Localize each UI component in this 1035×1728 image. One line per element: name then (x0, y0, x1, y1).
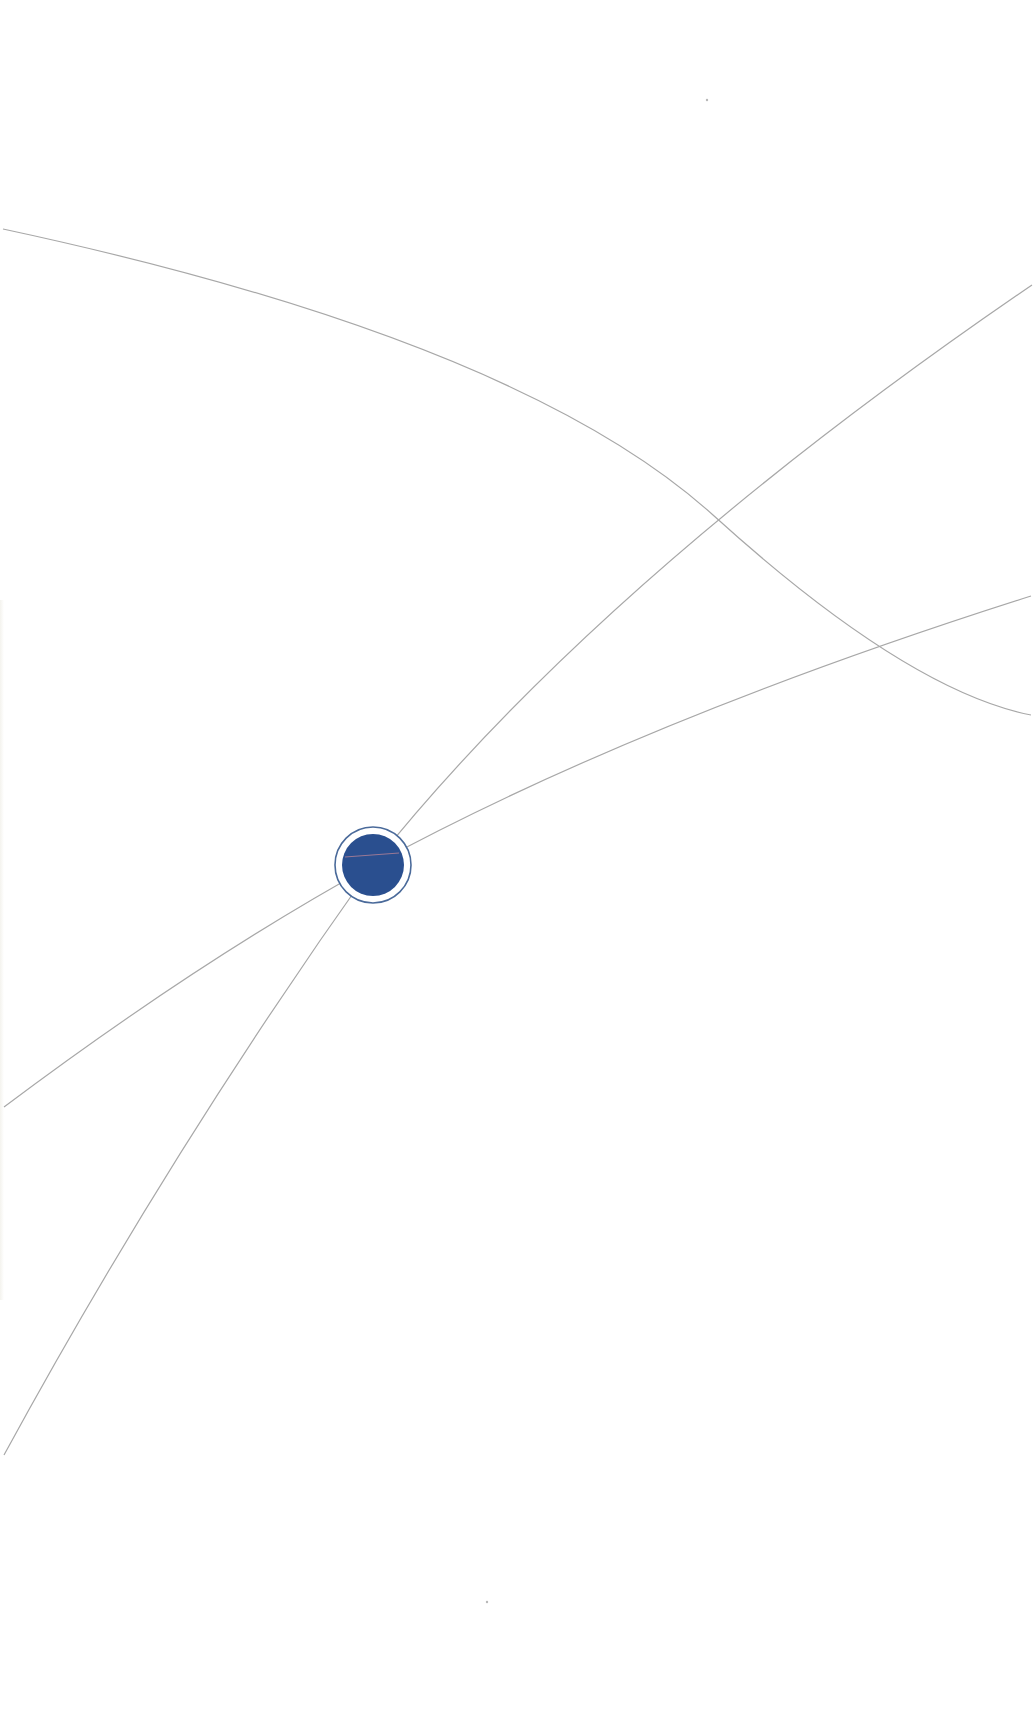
speck (486, 1601, 488, 1603)
shallow-arc-line (4, 596, 1031, 1107)
central-node (335, 827, 411, 903)
dust-specks (486, 99, 708, 1603)
connection-lines (3, 229, 1032, 1455)
steep-arc-line (4, 285, 1032, 1455)
network-diagram (0, 0, 1035, 1728)
node-fill (342, 834, 404, 896)
top-arc-line (3, 229, 1031, 715)
speck (706, 99, 708, 101)
